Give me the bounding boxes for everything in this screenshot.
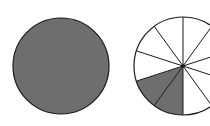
shaded-circle xyxy=(13,18,109,114)
whole-shaded-circle xyxy=(13,18,109,114)
tenths-circle xyxy=(134,17,210,115)
fraction-diagram xyxy=(0,0,210,126)
center-point xyxy=(181,64,185,68)
